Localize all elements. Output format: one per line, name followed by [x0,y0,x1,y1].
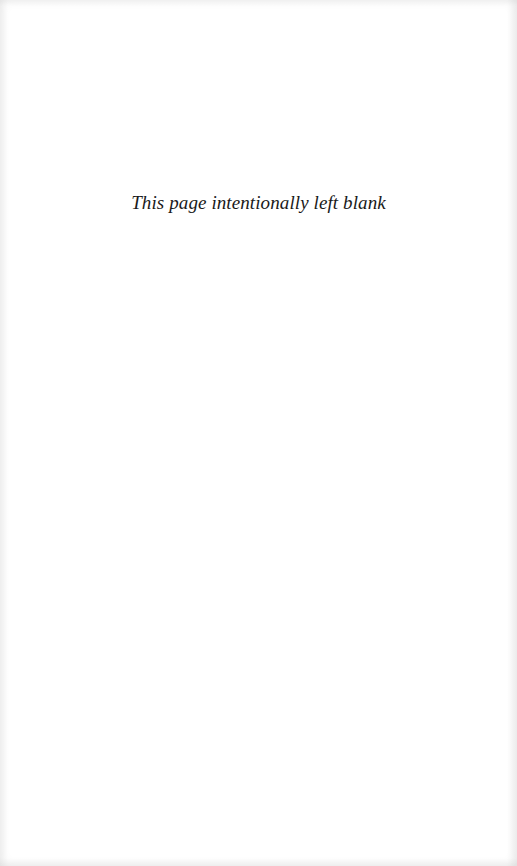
blank-page-notice: This page intentionally left blank [0,192,517,214]
document-page: This page intentionally left blank [0,0,517,866]
